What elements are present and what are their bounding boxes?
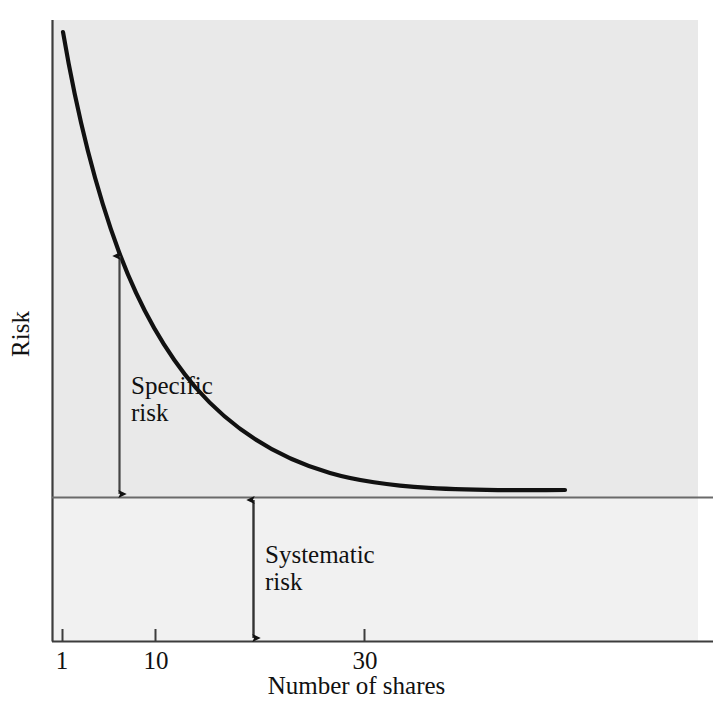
x-tick-label-10: 10	[132, 648, 180, 673]
specific-risk-annotation-label: Specific risk	[131, 373, 213, 426]
systematic-risk-annotation-label: Systematic risk	[265, 542, 375, 595]
x-tick-label-30: 30	[341, 648, 389, 673]
risk-diversification-figure: 1 10 30 Number of shares Risk Specific r…	[0, 0, 713, 711]
x-tick-label-1: 1	[42, 648, 82, 673]
y-axis-title: Risk	[7, 289, 35, 379]
x-axis-title: Number of shares	[0, 672, 713, 700]
chart-canvas	[0, 0, 713, 711]
